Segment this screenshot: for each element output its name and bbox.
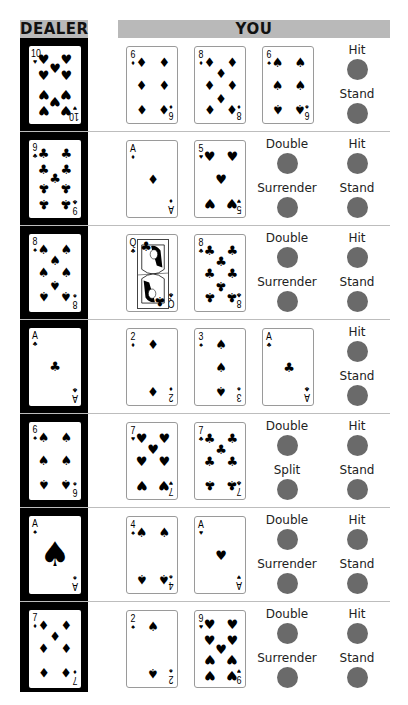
player-card: 6♠6♠♠♠♠♠♠♠ <box>262 46 314 124</box>
diamond-icon: ♦ <box>128 341 138 348</box>
diamond-icon: ♦ <box>157 102 171 116</box>
double-button[interactable] <box>277 247 298 268</box>
action-label-stand: Stand <box>317 87 397 101</box>
spade-icon: ♠ <box>59 477 73 491</box>
surrender-button[interactable] <box>277 291 298 312</box>
stand-button[interactable] <box>347 479 368 500</box>
spade-icon: ♠ <box>271 102 285 116</box>
club-icon: ♣ <box>203 478 217 492</box>
player-card: Q♣Q♣♣♣ <box>126 234 178 312</box>
action-label-surrender: Surrender <box>247 275 327 289</box>
card-rank: A <box>265 331 273 341</box>
spade-icon: ♠ <box>37 537 73 573</box>
club-icon: ♣ <box>282 361 296 375</box>
hit-button[interactable] <box>347 153 368 174</box>
club-icon: ♣ <box>225 290 239 304</box>
stand-button[interactable] <box>347 197 368 218</box>
spade-icon: ♠ <box>214 384 228 398</box>
stand-button[interactable] <box>347 573 368 594</box>
diamond-icon: ♦ <box>59 665 73 679</box>
action-label-stand: Stand <box>317 275 397 289</box>
card-rank: 2 <box>167 393 175 403</box>
card-corner-index: A♦ <box>166 198 176 215</box>
spade-icon: ♠ <box>196 341 206 348</box>
stand-button[interactable] <box>347 291 368 312</box>
heart-icon: ♥ <box>203 618 217 632</box>
hit-button[interactable] <box>347 59 368 80</box>
action-label-hit: Hit <box>317 43 397 57</box>
stand-button[interactable] <box>347 103 368 124</box>
card-rank: A <box>197 519 205 529</box>
diamond-icon: ♦ <box>225 102 239 116</box>
diamond-icon: ♦ <box>157 79 171 93</box>
card-rank: A <box>303 393 311 403</box>
heart-icon: ♥ <box>135 478 149 492</box>
action-label-stand: Stand <box>317 369 397 383</box>
action-label-split: Split <box>247 463 327 477</box>
card-rank: A <box>235 581 243 591</box>
diamond-icon: ♦ <box>128 153 138 160</box>
diamond-icon: ♦ <box>203 102 217 116</box>
player-card: 8♣8♣♣♣♣♣♣♣♣♣ <box>194 234 246 312</box>
spade-icon: ♠ <box>135 572 149 586</box>
spade-icon: ♠ <box>135 526 149 540</box>
club-icon: ♣ <box>37 197 51 211</box>
dealer-card: 10♥10♥♥♥♥♥♥♥♥♥♥♥ <box>29 46 81 124</box>
hit-button[interactable] <box>347 247 368 268</box>
player-card: 8♦8♦♦♦♦♦♦♦♦♦ <box>194 46 246 124</box>
heart-icon: ♥ <box>225 150 239 164</box>
player-card: A♥A♥♥ <box>194 516 246 594</box>
action-label-double: Double <box>247 419 327 433</box>
hit-button[interactable] <box>347 435 368 456</box>
surrender-button[interactable] <box>277 667 298 688</box>
double-button[interactable] <box>277 435 298 456</box>
card-corner-index: A♣ <box>70 387 80 404</box>
player-card: 7♥7♥♥♥♥♥♥♥♥ <box>126 422 178 500</box>
spade-icon: ♠ <box>37 454 51 468</box>
stand-button[interactable] <box>347 667 368 688</box>
card-corner-index: A♥ <box>234 574 244 591</box>
club-icon: ♣ <box>203 455 217 469</box>
card-rank: A <box>71 394 79 404</box>
double-button[interactable] <box>277 153 298 174</box>
surrender-button[interactable] <box>277 573 298 594</box>
row-separator <box>20 601 390 602</box>
player-card: 2♦2♦♦♦ <box>126 328 178 406</box>
card-rank: 2 <box>129 613 137 623</box>
card-rank: Q <box>129 237 137 247</box>
hit-button[interactable] <box>347 529 368 550</box>
row-separator <box>20 131 390 132</box>
spade-icon: ♠ <box>128 623 138 630</box>
action-label-hit: Hit <box>317 325 397 339</box>
heart-icon: ♥ <box>37 69 51 83</box>
spade-icon: ♠ <box>293 79 307 93</box>
heart-icon: ♥ <box>135 455 149 469</box>
row-separator <box>20 413 390 414</box>
double-button[interactable] <box>277 623 298 644</box>
surrender-button[interactable] <box>277 197 298 218</box>
diamond-icon: ♦ <box>59 642 73 656</box>
card-rank: A <box>31 330 39 340</box>
club-icon: ♣ <box>225 478 239 492</box>
row-separator <box>20 319 390 320</box>
spade-icon: ♠ <box>271 56 285 70</box>
card-rank: 3 <box>235 393 243 403</box>
dealer-card: 9♣9♣♣♣♣♣♣♣♣♣♣ <box>29 140 81 218</box>
double-button[interactable] <box>277 529 298 550</box>
heart-icon: ♥ <box>225 618 239 632</box>
spade-icon: ♠ <box>157 572 171 586</box>
club-icon: ♣ <box>225 455 239 469</box>
hit-button[interactable] <box>347 341 368 362</box>
spade-icon: ♠ <box>37 289 51 303</box>
heart-icon: ♥ <box>225 668 239 682</box>
split-button[interactable] <box>277 479 298 500</box>
stand-button[interactable] <box>347 385 368 406</box>
row-separator <box>20 507 390 508</box>
card-corner-index: 3♠ <box>234 386 244 403</box>
action-label-stand: Stand <box>317 557 397 571</box>
hit-button[interactable] <box>347 623 368 644</box>
heart-icon: ♥ <box>225 196 239 210</box>
card-corner-index: A♣ <box>302 386 312 403</box>
spade-icon: ♠ <box>30 528 40 535</box>
card-corner-index: A♦ <box>128 143 138 160</box>
